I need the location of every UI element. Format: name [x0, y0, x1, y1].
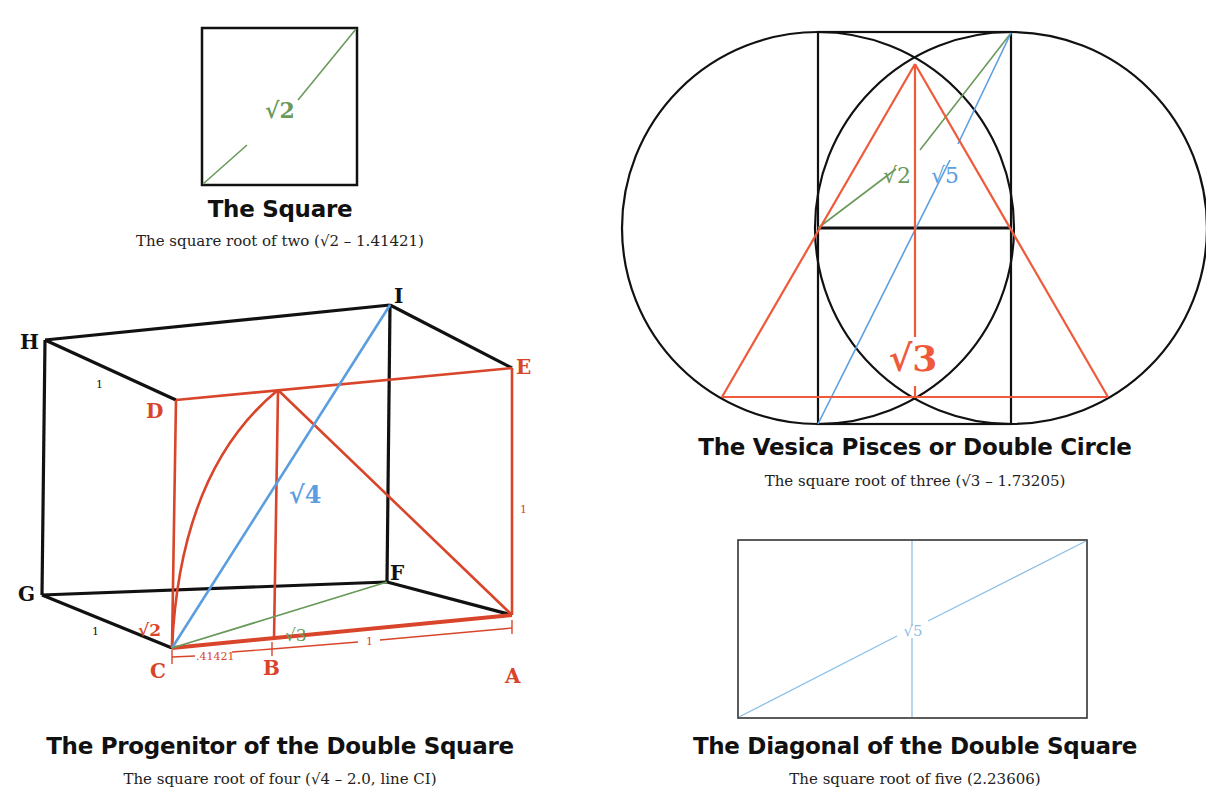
square-figure: √2	[202, 28, 357, 185]
edge-label-hd: 1	[96, 378, 103, 391]
vertex-label-e: E	[516, 355, 531, 379]
double-square-subtitle: The square root of five (2.23606)	[665, 770, 1165, 788]
progenitor-red-edges	[172, 368, 512, 648]
progenitor-title: The Progenitor of the Double Square	[0, 733, 560, 759]
vertex-label-b: B	[263, 656, 280, 680]
vesica-root2-line-upper	[920, 33, 1011, 150]
square-title: The Square	[130, 196, 430, 222]
vertex-label-g: G	[18, 582, 35, 606]
vesica-root2-label: √2	[883, 163, 911, 188]
edge-label-cb: .41421	[196, 650, 235, 663]
vertex-label-d: D	[146, 399, 163, 423]
vesica-root3-label: √3	[889, 337, 938, 379]
vesica-title: The Vesica Pisces or Double Circle	[650, 434, 1180, 460]
vesica-root5-label: √5	[931, 163, 959, 188]
progenitor-figure: H I E D G F C A B 1 1 1 1 .41421 √2 √3 √…	[18, 284, 531, 688]
edge-label-ca: 1	[366, 635, 373, 648]
edge-label-root3: √3	[285, 625, 307, 645]
double-square-diagonal-upper	[928, 541, 1086, 621]
vesica-subtitle: The square root of three (√3 – 1.73205)	[665, 472, 1165, 490]
vesica-figure: √2 √5 √3	[622, 32, 1206, 424]
double-square-title: The Diagonal of the Double Square	[650, 733, 1180, 759]
vesica-root5-line-lower	[818, 160, 950, 424]
edge-label-root4: √4	[289, 480, 321, 509]
vertex-label-i: I	[394, 284, 403, 308]
double-square-root5-label: √5	[903, 622, 922, 640]
vertex-label-a: A	[504, 664, 521, 688]
diagram-canvas: √2	[0, 0, 1206, 803]
square-diagonal-lower	[203, 145, 247, 184]
progenitor-subtitle: The square root of four (√4 – 2.0, line …	[30, 770, 530, 788]
edge-label-ea: 1	[520, 503, 527, 516]
square-diagonal-upper	[298, 29, 356, 100]
vesica-root5-line-upper	[958, 33, 1011, 144]
edge-label-root2: √2	[138, 620, 161, 640]
square-subtitle: The square root of two (√2 – 1.41421)	[40, 232, 520, 250]
edge-label-gc: 1	[92, 625, 99, 638]
double-square-diagonal-lower	[739, 636, 897, 717]
vertex-label-h: H	[20, 330, 39, 354]
square-root2-label: √2	[265, 97, 295, 123]
vertex-label-c: C	[150, 659, 166, 683]
progenitor-ci-line	[172, 305, 390, 648]
vertex-label-f: F	[390, 561, 404, 585]
double-square-figure: √5	[738, 540, 1087, 718]
